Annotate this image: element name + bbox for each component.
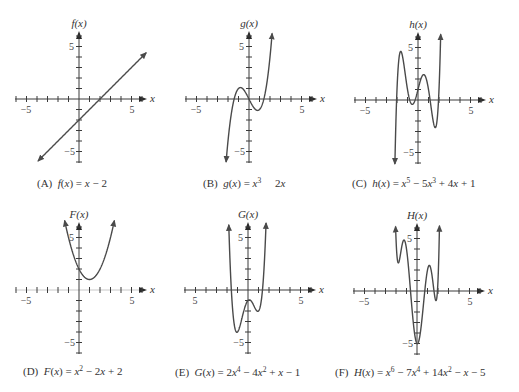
x-tick-label-neg: 5 [193,295,198,306]
y-tick-label-pos: 5 [69,232,74,243]
x-axis-label: x [318,283,324,295]
y-axis-arrow-icon [414,223,420,231]
y-axis-label: f(x) [71,17,87,30]
y-axis-label: F(x) [69,208,89,221]
x-tick-label-pos: 5 [469,105,474,116]
graph-panel-e: G(x) x 5 5 5 −5 [184,208,324,354]
x-tick-label-neg: −5 [359,296,370,307]
x-tick-label-pos: 5 [130,104,135,115]
y-tick-label-neg: −5 [402,338,413,349]
y-axis-arrow-icon [245,222,251,230]
caption-c: (C) h(x) = x5 − 5x3 + 4x + 1 [352,176,475,190]
y-tick-label-pos: 5 [69,41,74,52]
caption-e: (E) G(x) = 2x4 − 4x2 + x − 1 [175,365,300,379]
x-axis-label: x [319,92,325,104]
x-tick-label-pos: 5 [299,295,304,306]
y-axis-label: h(x) [409,18,427,31]
x-tick-label-pos: 5 [300,104,305,115]
x-tick-label-neg: −5 [191,104,202,115]
y-axis-label: G(x) [238,208,258,221]
y-tick-label-neg: −5 [234,146,245,157]
graph-panel-c: h(x) x −5 5 5 −5 [354,18,494,164]
graph-panel-a: f(x) x −5 5 5 −5 [15,17,155,163]
y-axis-label: H(x) [406,209,427,222]
y-axis-arrow-icon [246,31,252,39]
x-tick-label-pos: 5 [130,295,135,306]
graph-panel-f: H(x) x −5 5 5 −5 [353,209,493,355]
y-tick-label-neg: −5 [64,337,75,348]
function-curve [396,226,440,344]
x-axis-label: x [149,92,155,104]
y-tick-label-neg: −5 [64,146,75,157]
y-tick-label-pos: 5 [239,41,244,52]
y-tick-label-pos: 5 [407,233,412,244]
x-axis-arrow-icon [139,287,147,293]
x-axis-label: x [487,284,493,296]
x-axis-label: x [488,93,494,105]
x-axis-arrow-icon [309,96,317,102]
x-axis-arrow-icon [139,96,147,102]
x-tick-label-neg: −5 [21,295,32,306]
y-axis-arrow-icon [76,31,82,39]
caption-f: (F) H(x) = x6 − 7x4 + 14x2 − x − 5 [335,365,486,379]
caption-a: (A) f(x) = x − 2 [37,176,107,190]
y-axis-arrow-icon [76,222,82,230]
graph-panel-d: F(x) x −5 5 5 −5 [15,208,155,354]
function-curve [65,221,115,280]
function-graphs-figure: f(x) x −5 5 5 −5 g(x) x −5 5 5 −5 h(x) x… [0,0,519,392]
y-tick-label-pos: 5 [238,232,243,243]
x-tick-label-pos: 5 [468,296,473,307]
function-curve [229,223,266,332]
x-axis-label: x [149,283,155,295]
x-axis-arrow-icon [308,287,316,293]
caption-b: (B) g(x) = x3 2x [203,176,285,190]
y-tick-label-neg: −5 [403,147,414,158]
y-tick-label-pos: 5 [408,42,413,53]
y-tick-label-neg: −5 [233,337,244,348]
x-tick-label-neg: −5 [21,104,32,115]
x-axis-arrow-icon [477,288,485,294]
x-tick-label-neg: −5 [360,105,371,116]
y-axis-arrow-icon [415,32,421,40]
y-axis-label: g(x) [240,17,258,30]
graph-panel-b: g(x) x −5 5 5 −5 [185,17,325,163]
caption-d: (D) F(x) = x2 − 2x + 2 [23,364,122,378]
x-axis-arrow-icon [478,97,486,103]
